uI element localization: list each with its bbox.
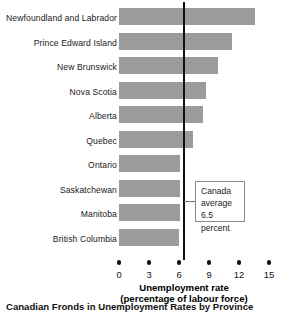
category-label-alberta: Alberta xyxy=(89,111,117,121)
category-label-prince-edward-island: Prince Edward Island xyxy=(34,38,117,48)
canada-average-reference-line xyxy=(183,2,185,260)
category-label-new-brunswick: New Brunswick xyxy=(57,62,117,72)
category-label-nova-scotia: Nova Scotia xyxy=(70,87,117,97)
callout-line-3: 6.5 percent xyxy=(201,209,240,233)
bar-new-brunswick xyxy=(119,57,218,74)
tick-dot-15 xyxy=(267,260,272,265)
tick-label-6: 6 xyxy=(168,270,190,280)
tick-dot-3 xyxy=(147,260,152,265)
tick-label-12: 12 xyxy=(228,270,250,280)
tick-dot-0 xyxy=(117,260,122,265)
tick-label-15: 15 xyxy=(258,270,280,280)
tick-dot-9 xyxy=(207,260,212,265)
bar-nova-scotia xyxy=(119,82,206,99)
category-label-ontario: Ontario xyxy=(88,160,117,170)
source-caption-clipped: Canadian Fronds in Unemployment Rates by… xyxy=(0,303,285,312)
bar-saskatchewan xyxy=(119,180,180,197)
canada-average-callout: Canada average 6.5 percent xyxy=(195,181,245,222)
source-caption-text: Canadian Fronds in Unemployment Rates by… xyxy=(6,303,253,312)
category-label-newfoundland-and-labrador: Newfoundland and Labrador xyxy=(6,13,117,23)
x-axis-title-line-1: Unemployment rate xyxy=(99,282,269,294)
bar-prince-edward-island xyxy=(119,33,232,50)
category-label-manitoba: Manitoba xyxy=(81,209,117,219)
tick-label-9: 9 xyxy=(198,270,220,280)
bar-british-columbia xyxy=(119,229,179,246)
unemployment-rate-bar-chart: Newfoundland and Labrador Prince Edward … xyxy=(0,0,285,312)
callout-line-1: Canada xyxy=(201,185,240,197)
category-label-saskatchewan: Saskatchewan xyxy=(60,185,117,195)
bar-alberta xyxy=(119,106,203,123)
bar-ontario xyxy=(119,155,180,172)
bar-manitoba xyxy=(119,204,180,221)
bar-quebec xyxy=(119,131,193,148)
bar-newfoundland-and-labrador xyxy=(119,8,255,25)
tick-dot-6 xyxy=(177,260,182,265)
tick-dot-12 xyxy=(237,260,242,265)
tick-label-0: 0 xyxy=(108,270,130,280)
tick-label-3: 3 xyxy=(138,270,160,280)
callout-line-2: average xyxy=(201,197,240,209)
category-label-british-columbia: British Columbia xyxy=(53,234,117,244)
category-label-quebec: Quebec xyxy=(86,136,117,146)
